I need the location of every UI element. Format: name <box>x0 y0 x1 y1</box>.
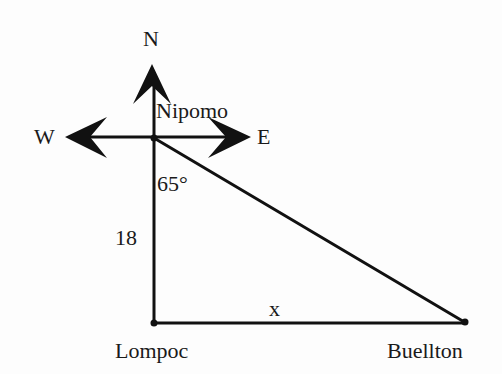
buellton-label: Buellton <box>387 338 463 363</box>
lompoc-label: Lompoc <box>115 338 189 363</box>
west-label: W <box>34 124 55 149</box>
side-nipomo-buellton <box>154 138 466 323</box>
vertex-buellton <box>462 319 469 326</box>
nipomo-label: Nipomo <box>156 98 228 123</box>
diagram-canvas: N W E Nipomo 65° 18 x Lompoc Buellton <box>0 0 502 374</box>
triangle-diagram: N W E Nipomo 65° 18 x Lompoc Buellton <box>0 0 502 374</box>
vertex-nipomo <box>151 135 158 142</box>
horizontal-side-label: x <box>269 296 280 321</box>
north-label: N <box>143 26 159 51</box>
east-label: E <box>257 124 270 149</box>
vertical-side-label: 18 <box>115 225 137 250</box>
angle-label: 65° <box>157 171 188 196</box>
vertex-lompoc <box>151 320 158 327</box>
